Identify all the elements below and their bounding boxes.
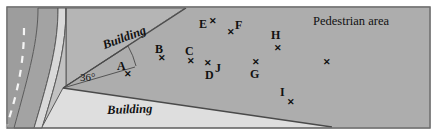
building-bottom-label: Building <box>107 102 153 116</box>
point-marker-g: ✕ <box>252 58 260 67</box>
point-label-g: G <box>250 68 259 80</box>
point-marker-d: ✕ <box>204 59 212 68</box>
site-plan-figure: Building Building Pedestrian area 36° A … <box>0 0 437 135</box>
point-marker-unlabeled: ✕ <box>323 58 331 67</box>
point-marker-h: ✕ <box>274 44 282 53</box>
point-marker-f: ✕ <box>227 28 235 37</box>
point-marker-b: ✕ <box>158 54 166 63</box>
point-marker-c: ✕ <box>187 57 195 66</box>
point-label-j: J <box>215 62 221 74</box>
point-label-h: H <box>271 29 280 41</box>
point-marker-i: ✕ <box>287 98 295 107</box>
point-label-f: F <box>235 19 242 31</box>
pedestrian-area-label: Pedestrian area <box>313 15 389 28</box>
point-label-e: E <box>199 18 207 30</box>
angle-label: 36° <box>80 72 95 83</box>
point-marker-e: ✕ <box>209 17 217 26</box>
point-label-d: D <box>205 69 214 81</box>
point-label-i: I <box>280 86 285 98</box>
point-marker-a: ✕ <box>124 70 132 79</box>
